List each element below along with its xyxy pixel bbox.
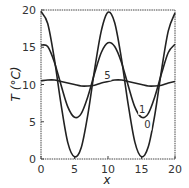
x-tick-label: 0 — [38, 163, 45, 176]
y-axis-label: T (°C) — [9, 67, 23, 102]
curves: 015 — [41, 11, 175, 156]
curve-label-5: 5 — [104, 70, 110, 81]
x-tick-label: 15 — [135, 163, 149, 176]
y-tick-label: 15 — [22, 41, 36, 54]
y-tick-label: 20 — [22, 4, 36, 17]
y-tick-label: 0 — [29, 153, 36, 166]
x-axis-label: x — [102, 173, 111, 187]
curve-label-1: 1 — [139, 104, 145, 115]
y-tick-label: 10 — [22, 79, 36, 92]
x-tick-label: 20 — [168, 163, 182, 176]
line-chart: 05101520 05101520 015 x T (°C) — [0, 0, 189, 188]
x-tick-label: 5 — [71, 163, 78, 176]
y-tick-label: 5 — [29, 116, 36, 129]
curve-label-0: 0 — [144, 119, 150, 130]
